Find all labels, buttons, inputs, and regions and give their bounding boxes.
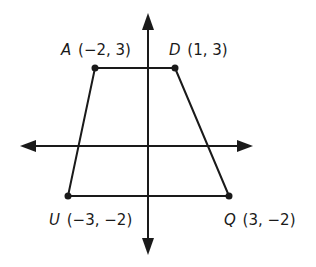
vertex-D-dot (172, 65, 179, 72)
vertex-A-label: A (−2, 3) (60, 41, 131, 59)
coordinate-diagram: A (−2, 3) D (1, 3) U (−3, −2) Q (3, −2) (0, 0, 316, 267)
x-axis-right-arrow-icon (237, 140, 253, 152)
y-axis-up-arrow-icon (142, 13, 154, 30)
x-axis (20, 140, 253, 152)
vertex-Q-dot (226, 193, 233, 200)
y-axis-down-arrow-icon (142, 238, 154, 255)
vertex-Q-label: Q (3, −2) (224, 211, 296, 229)
vertex-U-dot (65, 193, 72, 200)
x-axis-left-arrow-icon (20, 140, 36, 152)
y-axis (142, 13, 154, 255)
vertex-D-label: D (1, 3) (169, 41, 228, 59)
vertex-U-label: U (−3, −2) (49, 211, 132, 229)
vertex-A-dot (92, 65, 99, 72)
